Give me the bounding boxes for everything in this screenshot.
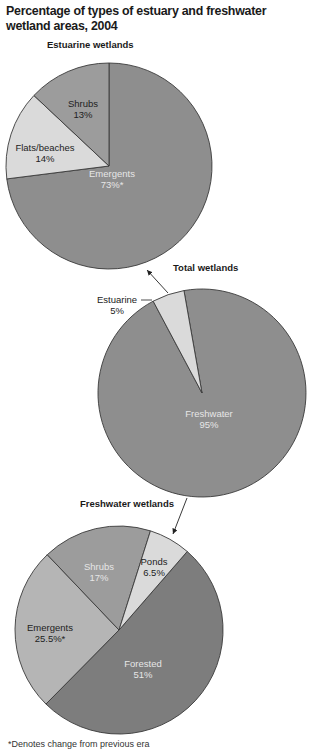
slice-value-label: 5%: [110, 305, 124, 316]
total-pie: Freshwater95%Estuarine5%: [97, 289, 306, 497]
wetlands-pie-charts: Estuarine wetlands Emergents73%*Flats/be…: [0, 0, 312, 753]
slice-label: Estuarine: [97, 294, 137, 305]
estuarine-pie-title: Estuarine wetlands: [47, 39, 134, 50]
freshwater-pie-title: Freshwater wetlands: [80, 498, 174, 509]
slice-label: Shrubs: [68, 98, 98, 109]
slice-value-label: 25.5%*: [35, 633, 66, 644]
footnote: *Denotes change from previous era: [8, 739, 150, 749]
slice-value-label: 73%*: [101, 179, 124, 190]
slice-value-label: 95%: [199, 419, 219, 430]
slice-label: Ponds: [141, 556, 168, 567]
slice-value-label: 17%: [89, 572, 109, 583]
slice-value-label: 14%: [35, 153, 55, 164]
arrow-to-estuarine: [147, 270, 168, 293]
slice-label: Emergents: [89, 168, 135, 179]
slice-label: Freshwater: [185, 408, 233, 419]
slice-label: Shrubs: [84, 561, 114, 572]
slice-label: Emergents: [27, 622, 73, 633]
total-pie-title: Total wetlands: [173, 262, 238, 273]
slice-value-label: 51%: [133, 669, 153, 680]
freshwater-pie: Forested51%Emergents25.5%*Shrubs17%Ponds…: [15, 526, 223, 734]
slice-value-label: 6.5%: [143, 567, 165, 578]
estuarine-pie: Emergents73%*Flats/beaches14%Shrubs13%: [6, 63, 212, 269]
arrow-to-freshwater: [173, 498, 187, 534]
slice-label: Forested: [124, 658, 162, 669]
slice-label: Flats/beaches: [15, 142, 74, 153]
slice-value-label: 13%: [73, 109, 93, 120]
